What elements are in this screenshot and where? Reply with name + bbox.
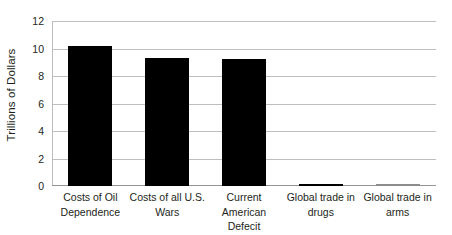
bar: [299, 184, 343, 187]
x-axis-label-line: Global trade in: [359, 190, 436, 205]
y-axis-title-text: Trillions of Dollars: [5, 49, 17, 142]
bar: [145, 58, 189, 186]
x-axis-label-line: Current: [206, 190, 283, 205]
bar: [68, 46, 112, 186]
y-tick-label: 10: [32, 43, 44, 55]
x-axis-label: Costs of all U.S.Wars: [129, 190, 206, 219]
plot-area: [52, 21, 436, 186]
x-axis-label-line: arms: [359, 205, 436, 220]
y-tick-label: 6: [38, 98, 44, 110]
y-tick-label: 0: [38, 180, 44, 192]
y-tick-label: 8: [38, 70, 44, 82]
x-axis-label: Global trade indrugs: [282, 190, 359, 219]
y-axis-tick-labels: 024681012: [22, 21, 48, 186]
bars-layer: [52, 21, 436, 186]
bar-chart: Trillions of Dollars 024681012 Costs of …: [0, 0, 452, 235]
x-axis-label-line: Costs of Oil: [52, 190, 129, 205]
x-axis-label: Global trade inarms: [359, 190, 436, 219]
x-axis-label-line: American Defecit: [206, 205, 283, 234]
x-axis-label-line: Wars: [129, 205, 206, 220]
x-axis-label-line: drugs: [282, 205, 359, 220]
x-axis-label: Costs of OilDependence: [52, 190, 129, 219]
x-axis-label-line: Global trade in: [282, 190, 359, 205]
x-axis-category-labels: Costs of OilDependenceCosts of all U.S.W…: [52, 190, 436, 235]
bar: [222, 59, 266, 186]
y-tick-label: 2: [38, 153, 44, 165]
y-tick-label: 4: [38, 125, 44, 137]
y-tick-label: 12: [32, 15, 44, 27]
x-axis-label: CurrentAmerican Defecit: [206, 190, 283, 234]
x-axis-label-line: Dependence: [52, 205, 129, 220]
bar: [376, 184, 420, 187]
x-axis-label-line: Costs of all U.S.: [129, 190, 206, 205]
y-axis-title: Trillions of Dollars: [0, 0, 22, 190]
